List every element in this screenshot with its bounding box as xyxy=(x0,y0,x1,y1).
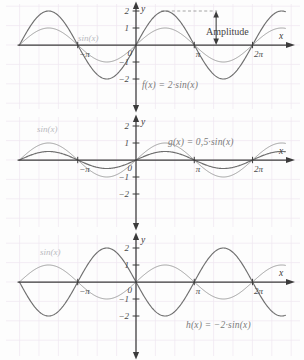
x-axis-label: x xyxy=(278,146,284,156)
plot-panel-g: yx−2−112−π0π2π sin(x) g(x) = 0,5·sin(x) xyxy=(0,113,304,231)
plot-panel-h: yx−2−112−π0π2π sin(x) h(x) = −2·sin(x) xyxy=(0,231,304,360)
x-tick-label: −π xyxy=(79,164,90,174)
y-tick-label: 2 xyxy=(125,243,130,253)
x-tick-label: 2π xyxy=(254,164,264,174)
plot-area-f: yx−2−112−π0π2π xyxy=(0,0,304,113)
x-axis-label: x xyxy=(278,31,284,41)
y-tick-label: −2 xyxy=(118,189,129,199)
origin-label: 0 xyxy=(128,163,133,173)
y-axis-label: y xyxy=(140,4,146,14)
origin-label: 0 xyxy=(128,285,133,295)
y-tick-label: −2 xyxy=(118,74,129,84)
reference-curve-label-g: sin(x) xyxy=(37,124,58,134)
x-tick-label: −π xyxy=(79,49,90,59)
y-tick-label: 1 xyxy=(125,138,130,148)
function-label-f: f(x) = 2·sin(x) xyxy=(142,80,198,90)
y-tick-label: 1 xyxy=(125,23,130,33)
plot-panel-f: yx−2−112−π0π2π sin(x) f(x) = 2·sin(x) Am… xyxy=(0,0,304,113)
y-axis-label: y xyxy=(140,117,146,127)
reference-curve-label-f: sin(x) xyxy=(78,33,99,43)
reference-curve-label-h: sin(x) xyxy=(40,247,61,257)
amplitude-annotation-label: Amplitude xyxy=(206,26,249,37)
x-tick-label: 2π xyxy=(254,286,264,296)
x-axis-label: x xyxy=(278,268,284,278)
function-label-g: g(x) = 0,5·sin(x) xyxy=(168,137,234,147)
origin-label: 0 xyxy=(128,48,133,58)
y-tick-label: 2 xyxy=(125,6,130,16)
y-axis-label: y xyxy=(140,235,146,245)
y-tick-label: −1 xyxy=(118,294,129,304)
y-tick-label: −2 xyxy=(118,311,129,321)
function-label-h: h(x) = −2·sin(x) xyxy=(186,320,251,330)
y-tick-label: 1 xyxy=(125,260,130,270)
y-tick-label: −1 xyxy=(118,57,129,67)
x-tick-label: π xyxy=(196,286,201,296)
x-tick-label: −π xyxy=(79,286,90,296)
sine-plot-svg-f: yx−2−112−π0π2π xyxy=(0,0,304,113)
x-tick-label: π xyxy=(196,164,201,174)
x-tick-label: 2π xyxy=(254,49,264,59)
x-tick-label: π xyxy=(196,49,201,59)
y-tick-label: −1 xyxy=(118,172,129,182)
y-tick-label: 2 xyxy=(125,121,130,131)
